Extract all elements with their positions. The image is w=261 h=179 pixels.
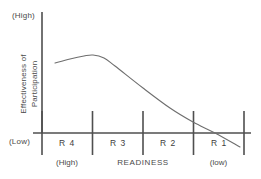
y-axis-title-line2: Participation xyxy=(29,54,40,114)
region-label-r2: R 2 xyxy=(143,138,193,148)
x-axis-left-note: (High) xyxy=(42,158,92,167)
region-label-r3: R 3 xyxy=(93,138,143,148)
x-axis-right-note: (low) xyxy=(193,158,244,167)
effectiveness-readiness-chart: (High) (Low) Effectiveness of Participat… xyxy=(0,0,261,179)
y-axis-low-label: (Low) xyxy=(9,138,30,146)
region-label-r1: R 1 xyxy=(194,138,244,148)
x-axis-title: READINESS xyxy=(93,158,193,167)
y-axis-title: Effectiveness of Participation xyxy=(16,34,42,134)
region-label-r4: R 4 xyxy=(42,138,92,148)
y-axis-high-label: (High) xyxy=(12,12,35,20)
y-axis-title-line1: Effectiveness of xyxy=(18,54,29,114)
